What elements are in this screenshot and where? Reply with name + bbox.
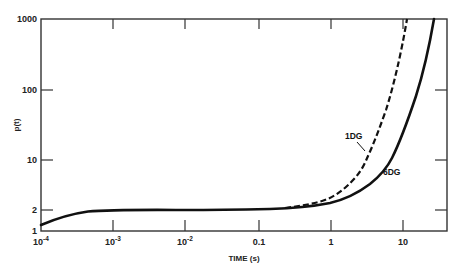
y-tick-label-1000: 1000 (17, 14, 37, 24)
series-label-6dg: 6DG (383, 167, 401, 177)
x-axis-label: TIME (s) (228, 254, 259, 263)
series-label-1dg: 1DG (345, 131, 363, 141)
y-tick-label-2: 2 (32, 205, 37, 215)
series-label-1dg-pointer (357, 142, 365, 151)
y-ticks-left (41, 90, 53, 210)
y-ticks-right (435, 90, 447, 210)
plot-frame (41, 19, 447, 231)
x-ticks-top (113, 19, 403, 29)
y-tick-label-1: 1 (32, 226, 37, 236)
y-tick-label-100: 100 (22, 85, 37, 95)
x-ticks-bottom (113, 220, 403, 231)
x-tick-label-0-1: 0.1 (253, 237, 266, 247)
x-tick-label-1e-3: 10-3 (105, 235, 121, 247)
series-1dg-line (285, 19, 407, 208)
y-tick-label-10: 10 (27, 155, 37, 165)
chart: 1 2 10 100 1000 10-4 10-3 10-2 0.1 1 10 … (0, 0, 461, 273)
x-tick-label-10: 10 (398, 237, 408, 247)
x-tick-label-1e-4: 10-4 (33, 235, 49, 247)
x-tick-label-1: 1 (328, 237, 333, 247)
x-tick-label-1e-2: 10-2 (177, 235, 193, 247)
series-6dg-line (41, 19, 434, 225)
y-axis-label: p(t) (12, 118, 21, 131)
